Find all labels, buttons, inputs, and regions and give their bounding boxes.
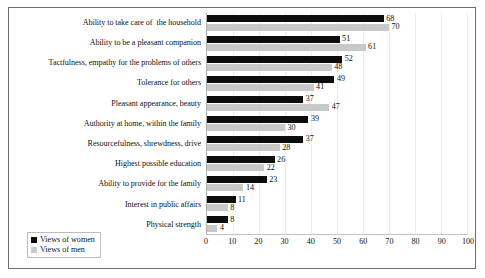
legend-item: Views of women xyxy=(31,235,95,245)
bar-row: 61 xyxy=(207,44,467,51)
bar-row: 28 xyxy=(207,144,467,151)
bar-value-label: 8 xyxy=(228,204,235,212)
bar-row: 11 xyxy=(207,196,467,203)
chart-body: Ability to take care of the householdAbi… xyxy=(9,8,475,268)
bar-row: 4 xyxy=(207,225,467,232)
bar-value-label: 49 xyxy=(334,75,345,83)
bar-group: 3728 xyxy=(207,134,467,154)
bar-row: 14 xyxy=(207,184,467,191)
bar-value-label: 4 xyxy=(217,224,224,232)
gridline xyxy=(467,13,468,234)
bar-value-label: 22 xyxy=(264,164,275,172)
category-label: Tactfulness, empathy for the problems of… xyxy=(9,53,205,73)
value-axis: 0102030405060708090100 xyxy=(206,237,468,251)
bar-series-container: 6870516152484941374739303728262223141188… xyxy=(207,13,467,234)
bar-value-label: 26 xyxy=(275,156,286,164)
bar-group: 4941 xyxy=(207,73,467,93)
bar-value-label: 70 xyxy=(389,23,400,31)
bar-row: 51 xyxy=(207,36,467,43)
bar-value-label: 52 xyxy=(342,55,353,63)
category-label: Ability to take care of the household xyxy=(9,13,205,33)
bar-value-label: 37 xyxy=(303,95,314,103)
axis-tick-label: 10 xyxy=(228,237,236,246)
bar-row: 30 xyxy=(207,124,467,131)
bar-group: 6870 xyxy=(207,13,467,33)
bar-men xyxy=(207,144,280,151)
bar-value-label: 41 xyxy=(314,83,325,91)
bar-row: 22 xyxy=(207,164,467,171)
bar-value-label: 23 xyxy=(267,176,278,184)
bar-row: 37 xyxy=(207,136,467,143)
bar-men xyxy=(207,225,217,232)
bar-value-label: 28 xyxy=(280,144,291,152)
bar-group: 84 xyxy=(207,214,467,234)
legend-label: Views of men xyxy=(40,245,85,255)
bar-men xyxy=(207,24,389,31)
bar-men xyxy=(207,44,366,51)
category-label: Ability to provide for the family xyxy=(9,175,205,195)
bar-group: 2622 xyxy=(207,154,467,174)
legend-item: Views of men xyxy=(31,245,95,255)
bar-value-label: 48 xyxy=(332,63,343,71)
bar-row: 48 xyxy=(207,64,467,71)
bar-value-label: 47 xyxy=(329,103,340,111)
chart-frame: Ability to take care of the householdAbi… xyxy=(8,7,476,269)
bar-women xyxy=(207,176,267,183)
bar-row: 39 xyxy=(207,116,467,123)
axis-tick-label: 100 xyxy=(462,237,474,246)
axis-tick-label: 60 xyxy=(359,237,367,246)
axis-tick-label: 20 xyxy=(254,237,262,246)
bar-row: 47 xyxy=(207,104,467,111)
bar-value-label: 37 xyxy=(303,135,314,143)
bar-row: 68 xyxy=(207,15,467,22)
bar-women xyxy=(207,216,228,223)
axis-tick-label: 90 xyxy=(438,237,446,246)
bar-group: 5161 xyxy=(207,33,467,53)
chart-legend: Views of womenViews of men xyxy=(27,232,101,258)
bar-value-label: 11 xyxy=(236,196,246,204)
bar-men xyxy=(207,64,332,71)
bar-women xyxy=(207,96,303,103)
bar-women xyxy=(207,116,308,123)
bar-men xyxy=(207,104,329,111)
bar-row: 8 xyxy=(207,204,467,211)
bar-value-label: 51 xyxy=(340,35,351,43)
bar-row: 49 xyxy=(207,76,467,83)
bar-women xyxy=(207,136,303,143)
category-label: Highest possible education xyxy=(9,154,205,174)
bar-women xyxy=(207,15,384,22)
bar-value-label: 14 xyxy=(243,184,254,192)
bar-row: 26 xyxy=(207,156,467,163)
axis-tick-label: 50 xyxy=(333,237,341,246)
bar-value-label: 30 xyxy=(285,124,296,132)
category-label: Tolerance for others xyxy=(9,74,205,94)
bar-row: 70 xyxy=(207,24,467,31)
bar-women xyxy=(207,36,340,43)
category-label: Ability to be a pleasant companion xyxy=(9,33,205,53)
category-label: Authority at home, within the family xyxy=(9,114,205,134)
bar-group: 3747 xyxy=(207,93,467,113)
legend-swatch-icon xyxy=(31,247,37,253)
category-label: Pleasant appearance, beauty xyxy=(9,94,205,114)
bar-men xyxy=(207,84,314,91)
bar-group: 2314 xyxy=(207,174,467,194)
bar-row: 41 xyxy=(207,84,467,91)
bar-group: 5248 xyxy=(207,53,467,73)
bar-men xyxy=(207,184,243,191)
axis-tick-label: 80 xyxy=(412,237,420,246)
bar-women xyxy=(207,156,275,163)
axis-tick-label: 70 xyxy=(385,237,393,246)
bar-women xyxy=(207,56,342,63)
axis-tick-label: 0 xyxy=(204,237,208,246)
bar-men xyxy=(207,164,264,171)
legend-swatch-icon xyxy=(31,237,37,243)
category-axis: Ability to take care of the householdAbi… xyxy=(9,13,205,235)
plot-area: 6870516152484941374739303728262223141188… xyxy=(206,13,468,235)
axis-tick-label: 30 xyxy=(281,237,289,246)
bar-men xyxy=(207,124,285,131)
bar-value-label: 61 xyxy=(366,43,377,51)
bar-row: 8 xyxy=(207,216,467,223)
bar-group: 118 xyxy=(207,194,467,214)
bar-group: 3930 xyxy=(207,113,467,133)
bar-value-label: 39 xyxy=(308,115,319,123)
